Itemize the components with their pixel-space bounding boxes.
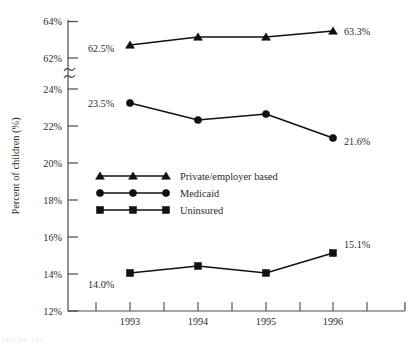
x-tick-label: 1994	[188, 316, 208, 327]
data-label-uninsured-last: 15.1%	[344, 239, 371, 250]
data-point-marker	[194, 116, 201, 123]
data-point-marker	[126, 99, 133, 106]
series-medicaid: 23.5% 21.6%	[88, 98, 371, 147]
data-label-medicaid-first: 23.5%	[88, 98, 115, 109]
legend-label: Medicaid	[180, 188, 220, 199]
square-marker-icon	[130, 207, 137, 214]
y-axis-ticks	[68, 22, 78, 312]
legend-item-medicaid[interactable]: Medicaid	[96, 188, 220, 199]
data-point-marker	[263, 270, 270, 277]
y-tick-label: 14%	[43, 269, 62, 280]
axis-break-icon	[64, 68, 75, 78]
circle-marker-icon	[129, 189, 136, 196]
data-point-marker	[330, 250, 337, 257]
legend-item-uninsured[interactable]: Uninsured	[97, 205, 224, 216]
y-tick-labels: 64% 62% 24% 22% 20% 18% 16% 14% 12%	[43, 16, 62, 317]
legend-item-private-employer-based[interactable]: Private/employer based	[96, 171, 279, 182]
square-marker-icon	[97, 207, 104, 214]
data-point-marker	[329, 134, 336, 141]
circle-marker-icon	[96, 189, 103, 196]
y-tick-label: 18%	[43, 195, 62, 206]
y-tick-label: 16%	[43, 232, 62, 243]
x-tick-labels: 1993 1994 1995 1996	[120, 316, 343, 327]
x-tick-label: 1996	[323, 316, 343, 327]
figure-container: 64% 62% 24% 22% 20% 18% 16% 14% 12% Perc…	[0, 0, 420, 344]
y-tick-label: 24%	[43, 84, 62, 95]
data-label-uninsured-first: 14.0%	[88, 279, 115, 290]
y-tick-label: 62%	[43, 53, 62, 64]
y-tick-label: 12%	[43, 306, 62, 317]
legend-label: Uninsured	[180, 205, 224, 216]
data-point-marker	[262, 110, 269, 117]
data-label-medicaid-last: 21.6%	[344, 136, 371, 147]
data-point-marker	[127, 270, 134, 277]
x-axis-ticks	[96, 302, 367, 311]
data-label-private-last: 63.3%	[344, 26, 371, 37]
x-tick-label: 1995	[256, 316, 276, 327]
legend-label: Private/employer based	[180, 171, 279, 182]
series-private-employer-based: 62.5% 63.3%	[88, 26, 371, 54]
line-chart: 64% 62% 24% 22% 20% 18% 16% 14% 12% Perc…	[0, 0, 420, 344]
y-axis-title: Percent of children (%)	[10, 117, 22, 214]
data-point-marker	[195, 263, 202, 270]
y-tick-label: 22%	[43, 121, 62, 132]
axis-frame	[68, 20, 405, 311]
chart-legend: Private/employer based Medicaid Uninsure…	[96, 171, 279, 216]
circle-marker-icon	[162, 189, 169, 196]
y-tick-label: 20%	[43, 158, 62, 169]
square-marker-icon	[163, 207, 170, 214]
x-tick-label: 1993	[120, 316, 140, 327]
data-label-private-first: 62.5%	[88, 43, 115, 54]
series-uninsured: 14.0% 15.1%	[88, 239, 371, 290]
y-tick-label: 64%	[43, 16, 62, 27]
figure-caption: FIGURE 12-1	[2, 336, 44, 344]
